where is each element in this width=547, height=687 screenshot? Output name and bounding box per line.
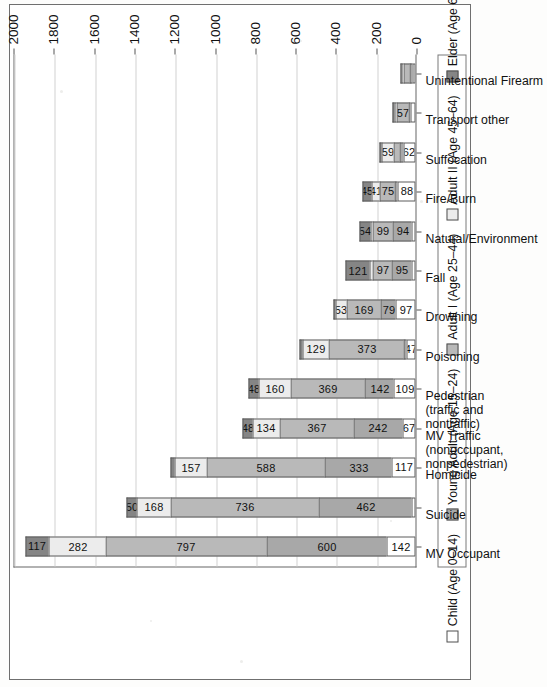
- bar-suffocation[interactable]: 6259: [379, 142, 415, 162]
- bar-segment[interactable]: 50: [126, 497, 136, 517]
- bar-segment[interactable]: 45: [362, 181, 371, 201]
- bar-segment[interactable]: 129: [302, 339, 328, 359]
- bar-segment[interactable]: [411, 497, 415, 517]
- bar-segment[interactable]: 62: [403, 142, 415, 162]
- bar-segment[interactable]: 48: [248, 378, 258, 398]
- y-axis-tick: [376, 48, 377, 54]
- bar-segment[interactable]: 88: [397, 181, 415, 201]
- bar-segment-value: 62: [403, 146, 415, 157]
- bar-segment[interactable]: 57: [396, 102, 407, 122]
- bar-poisoning[interactable]: 47373129: [299, 339, 415, 359]
- bar-segment[interactable]: [170, 457, 174, 477]
- bar-segment-value: 134: [256, 422, 275, 433]
- bar-segment[interactable]: 94: [392, 221, 411, 241]
- gridline: [256, 54, 257, 566]
- bar-segment[interactable]: [411, 221, 415, 241]
- bar-segment[interactable]: [392, 102, 394, 122]
- bar-segment[interactable]: 142: [386, 536, 415, 556]
- bar-segment[interactable]: [399, 142, 403, 162]
- x-axis-category-label: Suffocation: [425, 153, 547, 167]
- bar-segment[interactable]: [400, 63, 402, 83]
- y-axis-tick-label: 400: [328, 21, 343, 44]
- bar-segment[interactable]: 109: [393, 378, 415, 398]
- y-axis-tick: [295, 48, 296, 54]
- bar-segment[interactable]: 54: [359, 221, 370, 241]
- bar-mv-occupant[interactable]: 142600797282117: [25, 536, 415, 556]
- bar-fall[interactable]: 9597121: [345, 260, 415, 280]
- bar-segment-value: 282: [68, 541, 87, 552]
- x-axis-category-label: MV Occupant: [425, 547, 547, 561]
- gridline: [54, 54, 55, 566]
- bar-segment[interactable]: 282: [48, 536, 105, 556]
- bar-segment[interactable]: [410, 102, 415, 122]
- bar-segment[interactable]: 53: [335, 300, 346, 320]
- bar-mv-traffic-nonoccupant-nonpedestrian[interactable]: 6724236713448: [242, 418, 415, 438]
- bar-homicide[interactable]: 117333588157: [170, 457, 415, 477]
- bar-transport-other[interactable]: 57: [392, 102, 415, 122]
- bar-segment[interactable]: 462: [318, 497, 411, 517]
- x-axis-tick: [416, 310, 421, 311]
- bar-segment[interactable]: 242: [353, 418, 402, 438]
- x-axis-category-label: Pedestrian (traffic andnontraffic): [425, 389, 547, 430]
- bar-segment[interactable]: 48: [242, 418, 252, 438]
- bar-segment-value: 50: [126, 501, 136, 512]
- bar-segment[interactable]: 369: [290, 378, 364, 398]
- bar-suicide[interactable]: 46273616850: [126, 497, 415, 517]
- bar-segment[interactable]: 160: [258, 378, 290, 398]
- bar-segment[interactable]: 588: [206, 457, 324, 477]
- gridline: [95, 54, 96, 566]
- bar-segment[interactable]: 67: [402, 418, 416, 438]
- bar-unintentional-firearm[interactable]: [400, 63, 415, 83]
- scan-artifact: [300, 40, 302, 42]
- bar-segment[interactable]: 117: [25, 536, 49, 556]
- bar-segment[interactable]: 157: [174, 457, 206, 477]
- bar-segment[interactable]: 41: [371, 181, 379, 201]
- bar-segment-value: 369: [318, 383, 337, 394]
- bar-segment[interactable]: [379, 142, 381, 162]
- bar-segment[interactable]: 168: [136, 497, 170, 517]
- bar-segment-value: 54: [359, 225, 370, 236]
- bar-segment[interactable]: 99: [372, 221, 392, 241]
- bar-segment[interactable]: 797: [105, 536, 266, 556]
- bar-segment[interactable]: 47: [406, 339, 415, 359]
- bar-segment[interactable]: 169: [346, 300, 380, 320]
- bar-segment[interactable]: 134: [252, 418, 279, 438]
- bar-segment-value: 736: [235, 501, 254, 512]
- bar-segment[interactable]: [409, 63, 412, 83]
- bar-segment[interactable]: 600: [266, 536, 387, 556]
- bar-segment[interactable]: 97: [395, 300, 415, 320]
- bar-segment[interactable]: 121: [345, 260, 369, 280]
- bar-segment[interactable]: 333: [324, 457, 391, 477]
- scan-artifact: [60, 90, 63, 93]
- bar-segment-value: 53: [335, 304, 346, 315]
- bar-segment[interactable]: [299, 339, 302, 359]
- bar-segment[interactable]: [333, 300, 335, 320]
- bar-segment[interactable]: 736: [170, 497, 318, 517]
- bar-segment[interactable]: [403, 63, 409, 83]
- legend-item[interactable]: Elder (Age 65+): [445, 0, 459, 82]
- bar-segment-value: 88: [400, 186, 413, 197]
- bar-segment[interactable]: 97: [372, 260, 392, 280]
- bar-natural-environment[interactable]: 949954: [359, 221, 415, 241]
- bar-fire-burn[interactable]: 88754145: [362, 181, 415, 201]
- scan-artifact: [240, 660, 243, 663]
- y-axis-tick: [53, 48, 54, 54]
- bar-segment[interactable]: 117: [391, 457, 415, 477]
- bar-segment-value: 169: [354, 304, 373, 315]
- bar-segment-value: 797: [176, 541, 195, 552]
- bar-segment[interactable]: 79: [380, 300, 396, 320]
- bar-pedestrian-traffic-and-nontraffic[interactable]: 10914236916048: [248, 378, 415, 398]
- legend-item[interactable]: Adult I (Age 25–44): [445, 233, 459, 355]
- bar-segment[interactable]: [393, 142, 399, 162]
- bar-segment[interactable]: 142: [364, 378, 393, 398]
- bar-segment[interactable]: [411, 260, 415, 280]
- bar-segment[interactable]: 373: [328, 339, 403, 359]
- bar-segment[interactable]: 95: [391, 260, 410, 280]
- bar-segment[interactable]: 367: [279, 418, 353, 438]
- bar-segment[interactable]: 75: [379, 181, 394, 201]
- gridline: [216, 54, 217, 566]
- x-axis-category-label: Fall: [425, 271, 547, 285]
- bar-segment[interactable]: 59: [381, 142, 393, 162]
- x-axis-tick: [416, 152, 421, 153]
- bar-drowning[interactable]: 977916953: [333, 300, 415, 320]
